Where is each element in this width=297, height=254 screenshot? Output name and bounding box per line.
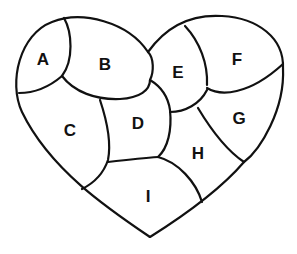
- region-label-h: H: [192, 145, 204, 162]
- region-label-c: C: [64, 122, 76, 139]
- region-label-i: I: [146, 188, 151, 205]
- region-label-e: E: [172, 64, 183, 81]
- region-label-f: F: [232, 51, 242, 68]
- region-label-a: A: [37, 51, 49, 68]
- region-label-d: D: [132, 115, 144, 132]
- heart-diagram: A B C D E F G H I: [0, 0, 297, 254]
- region-label-b: B: [99, 56, 111, 73]
- heart-drawing: [0, 0, 297, 254]
- region-label-g: G: [232, 110, 245, 127]
